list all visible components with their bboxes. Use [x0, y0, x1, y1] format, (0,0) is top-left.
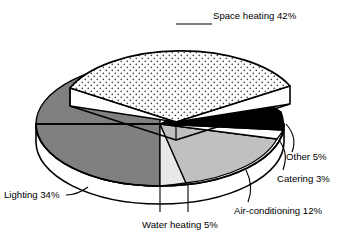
label-space-heating: Space heating 42%	[213, 10, 297, 21]
label-other: Other 5%	[286, 151, 327, 162]
pie-chart-svg: Space heating 42% Lighting 34% Air-condi…	[0, 0, 339, 241]
pie-chart-figure: Space heating 42% Lighting 34% Air-condi…	[0, 0, 339, 241]
label-catering: Catering 3%	[277, 173, 330, 184]
label-air-conditioning: Air-conditioning 12%	[234, 205, 322, 216]
label-water-heating: Water heating 5%	[142, 219, 218, 230]
label-lighting: Lighting 34%	[4, 189, 60, 200]
